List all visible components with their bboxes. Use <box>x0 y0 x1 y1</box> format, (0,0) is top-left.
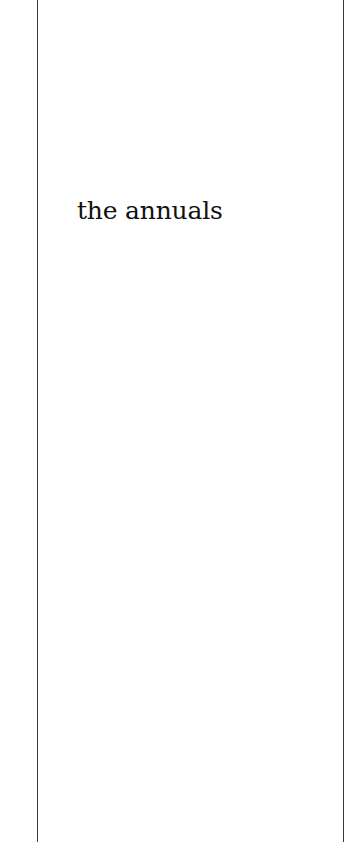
left-margin-rule <box>37 0 38 842</box>
section-title: the annuals <box>77 196 223 225</box>
right-margin-rule <box>343 0 344 842</box>
